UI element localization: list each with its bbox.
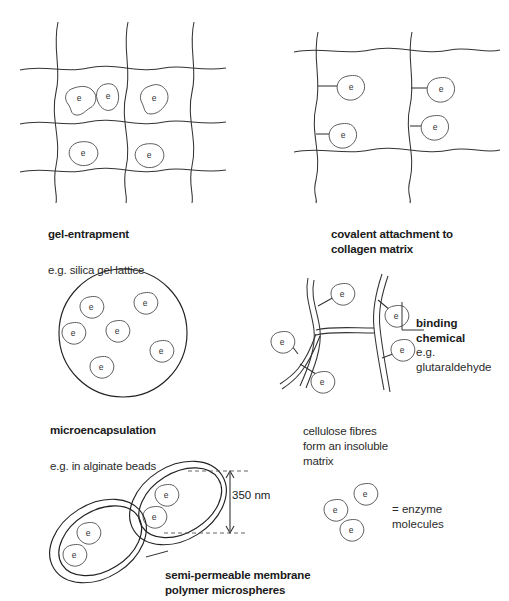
enzyme-molecule: e bbox=[331, 283, 355, 305]
svg-text:e: e bbox=[89, 302, 94, 312]
enzyme-molecule: e bbox=[155, 484, 179, 506]
enzyme-molecule: e bbox=[427, 78, 454, 103]
enzyme-molecule: e bbox=[340, 519, 364, 541]
dimension-label-350nm: 350 nm bbox=[232, 489, 270, 501]
svg-text:e: e bbox=[400, 345, 405, 355]
enzyme-molecule: e bbox=[96, 84, 118, 111]
svg-text:e: e bbox=[340, 289, 345, 299]
enzyme-molecule: e bbox=[106, 320, 130, 342]
gel-entrapment-title: gel-entrapment bbox=[48, 227, 144, 242]
microencapsulation-title: microencapsulation bbox=[50, 423, 156, 438]
svg-text:e: e bbox=[152, 93, 157, 103]
svg-text:e: e bbox=[433, 122, 438, 132]
enzyme-molecule: e bbox=[69, 142, 98, 166]
enzyme-molecule: e bbox=[421, 116, 448, 141]
dimension-arrow-350nm bbox=[226, 471, 234, 533]
svg-text:e: e bbox=[280, 337, 285, 347]
binding-chemical-subtitle: e.g. glutaraldehyde bbox=[416, 345, 491, 374]
enzyme-molecule: e bbox=[271, 331, 295, 353]
svg-text:e: e bbox=[159, 346, 164, 356]
svg-text:e: e bbox=[320, 377, 325, 387]
svg-text:e: e bbox=[147, 150, 152, 160]
covalent-attachment-title: covalent attachment to collagen matrix bbox=[331, 227, 453, 256]
enzyme-molecule: e bbox=[354, 483, 378, 505]
cellulose-matrix-figure: e e e e e bbox=[278, 272, 413, 402]
svg-text:e: e bbox=[106, 91, 111, 101]
svg-text:e: e bbox=[333, 505, 338, 515]
svg-text:e: e bbox=[143, 298, 148, 308]
svg-text:e: e bbox=[164, 490, 169, 500]
lattice-horizontal-fibres bbox=[20, 66, 226, 172]
binding-chemical-callout: binding chemical e.g. glutaraldehyde bbox=[416, 316, 491, 375]
enzyme-molecule: e bbox=[80, 296, 104, 318]
collagen-vertical-fibres bbox=[314, 32, 412, 203]
enzyme-molecule: e bbox=[90, 356, 114, 378]
svg-text:e: e bbox=[115, 326, 120, 336]
enzyme-molecule: e bbox=[135, 144, 164, 168]
microencapsulation-figure: e e e e e e bbox=[45, 265, 220, 405]
svg-text:e: e bbox=[439, 84, 444, 94]
legend-enzyme-symbols: e e e bbox=[325, 482, 400, 547]
enzyme-molecule: e bbox=[150, 340, 174, 362]
enzyme-molecule: e bbox=[337, 76, 364, 101]
svg-text:e: e bbox=[81, 148, 86, 158]
svg-text:e: e bbox=[86, 528, 91, 538]
enzyme-molecule: e bbox=[311, 371, 335, 393]
enzyme-molecule: e bbox=[329, 124, 356, 149]
polymer-microspheres-caption: semi-permeable membrane polymer microsph… bbox=[165, 548, 310, 601]
svg-text:e: e bbox=[71, 328, 76, 338]
svg-text:e: e bbox=[99, 362, 104, 372]
covalent-attachment-caption: covalent attachment to collagen matrix bbox=[331, 207, 453, 277]
gel-entrapment-figure: e e e e e bbox=[18, 20, 228, 205]
svg-text:e: e bbox=[72, 550, 77, 560]
svg-text:e: e bbox=[349, 82, 354, 92]
polymer-microspheres-title: semi-permeable membrane polymer microsph… bbox=[165, 568, 310, 597]
cellulose-matrix-caption: cellulose fibres form an insoluble matri… bbox=[303, 404, 388, 489]
legend-caption: = enzyme molecules bbox=[392, 502, 444, 532]
svg-text:e: e bbox=[77, 93, 82, 103]
enzyme-molecule: e bbox=[77, 522, 101, 544]
svg-text:e: e bbox=[349, 525, 354, 535]
enzyme-molecule: e bbox=[324, 499, 348, 521]
cellulose-matrix-text: cellulose fibres form an insoluble matri… bbox=[303, 424, 388, 468]
enzyme-molecule: e bbox=[63, 544, 87, 566]
enzyme-molecule: e bbox=[134, 292, 158, 314]
svg-text:e: e bbox=[341, 130, 346, 140]
enzyme-molecule: e bbox=[140, 85, 168, 114]
svg-text:e: e bbox=[152, 512, 157, 522]
svg-text:e: e bbox=[363, 489, 368, 499]
binding-chemical-title: binding chemical bbox=[416, 316, 491, 345]
enzyme-molecule: e bbox=[66, 86, 96, 115]
covalent-attachment-figure: e e e e bbox=[300, 30, 500, 205]
collagen-horizontal-fibres bbox=[294, 48, 500, 152]
enzyme-molecule: e bbox=[62, 322, 86, 344]
